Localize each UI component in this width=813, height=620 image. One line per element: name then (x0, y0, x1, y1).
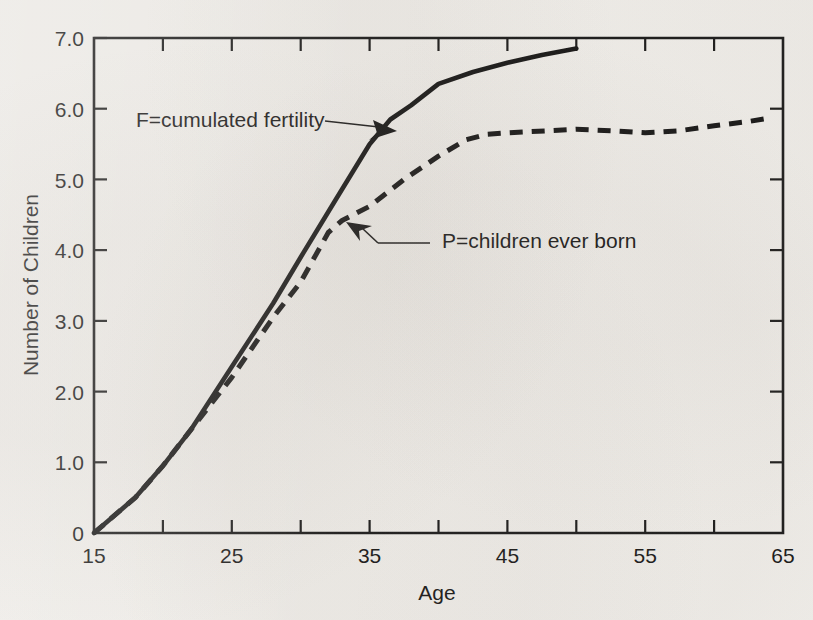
y-tick-label-3.0: 3.0 (55, 310, 84, 333)
series-line-children-ever-born (94, 118, 770, 533)
x-tick-label-35: 35 (358, 544, 381, 567)
x-axis-tick-labels: 15 25 35 45 55 65 (82, 544, 794, 567)
annotation-label-F: F=cumulated fertility (136, 108, 325, 131)
y-tick-label-1.0: 1.0 (55, 451, 84, 474)
y-tick-label-5.0: 5.0 (55, 169, 84, 192)
y-axis-title: Number of Children (19, 194, 42, 376)
annotation-leader-P-2 (362, 228, 378, 243)
annotation-arrowhead-F (369, 120, 397, 140)
annotation-label-P: P=children ever born (442, 229, 636, 252)
figure-container: 7.0 6.0 5.0 4.0 3.0 2.0 1.0 0 (0, 0, 813, 620)
annotation-arrowhead-P (346, 222, 372, 241)
y-tick-label-4.0: 4.0 (55, 239, 84, 262)
y-tick-label-6.0: 6.0 (55, 98, 84, 121)
x-tick-label-65: 65 (771, 544, 794, 567)
x-axis-ticks-top (163, 38, 714, 51)
x-axis-ticks (163, 520, 714, 533)
y-tick-label-2.0: 2.0 (55, 381, 84, 404)
y-axis-tick-labels: 7.0 6.0 5.0 4.0 3.0 2.0 1.0 0 (55, 27, 84, 545)
x-tick-label-25: 25 (220, 544, 243, 567)
y-axis-ticks (94, 38, 107, 462)
fertility-line-chart: 7.0 6.0 5.0 4.0 3.0 2.0 1.0 0 (0, 0, 813, 620)
annotation-children-ever-born: P=children ever born (346, 222, 636, 252)
x-axis-title: Age (418, 581, 455, 604)
x-tick-label-55: 55 (634, 544, 657, 567)
annotation-cumulated-fertility: F=cumulated fertility (136, 108, 397, 140)
y-tick-label-7.0: 7.0 (55, 27, 84, 50)
x-tick-label-45: 45 (496, 544, 519, 567)
y-axis-ticks-right (770, 109, 783, 463)
y-tick-label-0: 0 (72, 522, 84, 545)
x-tick-label-15: 15 (82, 544, 105, 567)
